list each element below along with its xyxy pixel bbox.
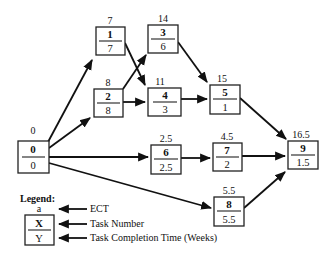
node-completion-time: 2 bbox=[224, 159, 229, 170]
edge-5-9 bbox=[240, 98, 286, 139]
node-task-number: 7 bbox=[224, 144, 230, 156]
node-3: 14 3 6 bbox=[148, 13, 178, 53]
edge-0-8 bbox=[49, 163, 211, 208]
legend-sample-ect: a bbox=[37, 203, 42, 214]
node-ect: 2.5 bbox=[160, 133, 173, 144]
node-completion-time: 6 bbox=[160, 41, 165, 52]
node-task-number: 5 bbox=[222, 86, 228, 98]
node-completion-time: 0 bbox=[30, 160, 35, 171]
edge-0-2 bbox=[49, 118, 90, 148]
legend-label-time: Task Completion Time (Weeks) bbox=[90, 232, 217, 244]
node-completion-time: 5.5 bbox=[222, 214, 235, 225]
node-7: 4.5 7 2 bbox=[213, 131, 242, 171]
node-ect: 15 bbox=[217, 73, 227, 84]
node-ect: 7 bbox=[108, 15, 113, 26]
legend-sample-task: X bbox=[35, 217, 43, 229]
edge-8-9 bbox=[244, 172, 285, 208]
node-task-number: 0 bbox=[30, 143, 36, 155]
node-ect: 8 bbox=[106, 77, 111, 88]
legend-label-ect: ECT bbox=[90, 203, 109, 214]
edges bbox=[48, 42, 286, 208]
node-4: 11 4 3 bbox=[148, 76, 181, 116]
node-task-number: 9 bbox=[300, 142, 306, 154]
node-completion-time: 7 bbox=[107, 43, 112, 54]
node-0: 0 0 0 bbox=[18, 125, 49, 173]
node-5: 15 5 1 bbox=[210, 73, 240, 114]
node-completion-time: 8 bbox=[105, 105, 110, 116]
node-ect: 16.5 bbox=[292, 129, 310, 140]
edge-3-5 bbox=[178, 42, 207, 82]
node-task-number: 8 bbox=[226, 198, 232, 210]
node-completion-time: 3 bbox=[162, 104, 167, 115]
node-task-number: 2 bbox=[105, 90, 111, 102]
node-task-number: 6 bbox=[163, 146, 169, 158]
node-task-number: 3 bbox=[160, 26, 166, 38]
node-completion-time: 1 bbox=[222, 102, 227, 113]
node-completion-time: 1.5 bbox=[296, 157, 309, 168]
node-task-number: 4 bbox=[162, 89, 168, 101]
node-ect: 14 bbox=[158, 13, 168, 24]
node-ect: 4.5 bbox=[221, 131, 234, 142]
edge-0-1 bbox=[48, 60, 92, 142]
legend-sample-time: Y bbox=[35, 233, 43, 244]
node-ect: 5.5 bbox=[223, 185, 236, 196]
node-6: 2.5 6 2.5 bbox=[151, 133, 181, 174]
edge-1-4 bbox=[125, 43, 145, 85]
node-ect: 11 bbox=[155, 76, 165, 87]
legend-label-task: Task Number bbox=[90, 218, 145, 229]
node-1: 7 1 7 bbox=[96, 15, 125, 55]
node-8: 5.5 8 5.5 bbox=[214, 185, 244, 226]
node-task-number: 1 bbox=[107, 28, 113, 40]
node-2: 8 2 8 bbox=[94, 77, 123, 117]
node-9: 16.5 9 1.5 bbox=[288, 129, 318, 169]
edge-2-3 bbox=[123, 55, 146, 89]
node-completion-time: 2.5 bbox=[159, 162, 172, 173]
node-ect: 0 bbox=[31, 125, 36, 136]
network-diagram: 0 0 0 7 1 7 8 2 8 14 3 6 11 4 3 15 bbox=[0, 0, 335, 259]
